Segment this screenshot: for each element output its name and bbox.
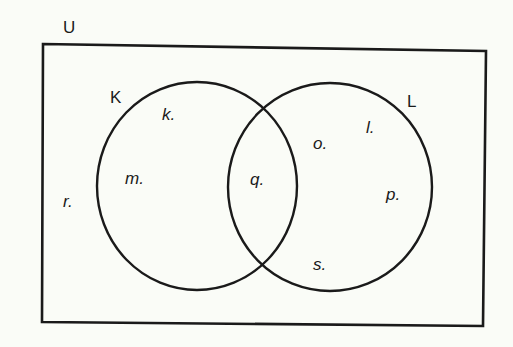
element-r: r.: [63, 193, 73, 210]
element-k: k.: [162, 106, 175, 123]
set-l-label: L: [407, 93, 416, 110]
set-k-label: K: [110, 89, 121, 106]
element-q: q.: [250, 171, 264, 188]
element-p: p.: [386, 186, 400, 203]
universe-label: U: [63, 19, 75, 36]
element-o: o.: [313, 135, 327, 152]
element-m: m.: [125, 170, 144, 187]
element-s: s.: [313, 256, 326, 273]
element-l: l.: [366, 119, 375, 136]
